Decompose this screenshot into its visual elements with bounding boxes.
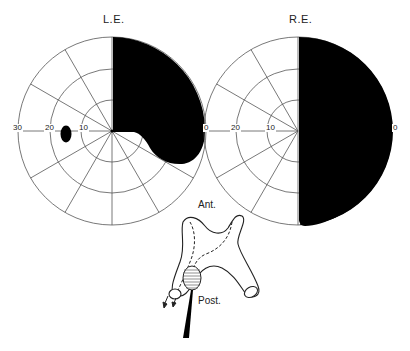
lesion-pointer <box>183 290 193 338</box>
right-eye-title: R.E. <box>289 13 312 25</box>
posterior-label: Post. <box>198 295 221 306</box>
left-ring-label-30: 30 <box>12 124 23 132</box>
right-edge-label-left: 0 <box>203 124 209 132</box>
left-ring-label-10: 10 <box>78 124 89 132</box>
right-ring-label-20: 20 <box>230 124 241 132</box>
left-field-defect <box>113 37 205 164</box>
optic-chiasm-schematic <box>169 215 260 300</box>
left-ring-label-20: 20 <box>44 124 55 132</box>
right-ring-label-10: 10 <box>265 124 276 132</box>
left-eye-title: L.E. <box>103 13 125 25</box>
right-edge-label-right: 0 <box>392 124 398 132</box>
lesion <box>183 266 201 290</box>
anterior-label: Ant. <box>198 199 216 210</box>
left-scotoma <box>61 126 72 143</box>
